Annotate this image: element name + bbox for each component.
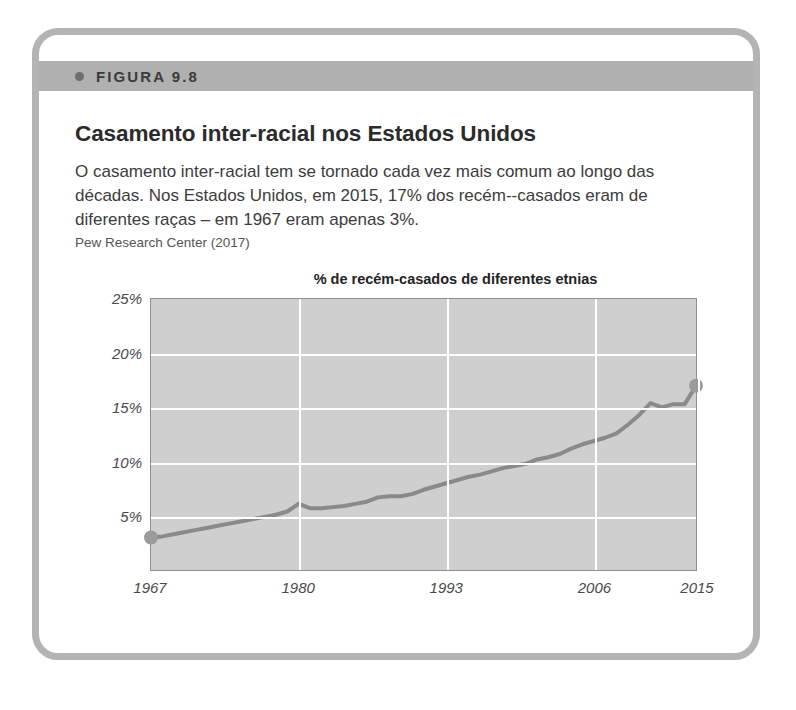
y-axis-tick-label: 10% xyxy=(82,453,142,470)
figure-card: FIGURA 9.8 Casamento inter-racial nos Es… xyxy=(32,28,760,660)
figure-source: Pew Research Center (2017) xyxy=(75,235,717,250)
y-axis-labels: 5%10%15%20%25% xyxy=(72,298,142,571)
x-axis-labels: 19671980199320062015 xyxy=(150,579,697,607)
gridline-horizontal xyxy=(151,463,696,465)
bullet-dot-icon xyxy=(75,72,84,81)
figure-body: Casamento inter-racial nos Estados Unido… xyxy=(39,91,753,250)
x-axis-tick-label: 2015 xyxy=(680,579,713,596)
x-axis-tick-label: 1967 xyxy=(133,579,166,596)
gridline-horizontal xyxy=(151,517,696,519)
gridline-vertical xyxy=(299,299,301,570)
gridline-vertical xyxy=(447,299,449,570)
series-line-chart xyxy=(151,299,696,570)
end-marker xyxy=(689,379,703,393)
y-axis-tick-label: 25% xyxy=(82,290,142,307)
x-axis-tick-label: 1980 xyxy=(281,579,314,596)
gridline-horizontal xyxy=(151,354,696,356)
chart-title: % de recém-casados de diferentes etnias xyxy=(182,271,729,287)
y-axis-tick-label: 5% xyxy=(82,508,142,525)
figure-number-label: FIGURA 9.8 xyxy=(96,68,199,85)
plot-area xyxy=(150,298,697,571)
chart-container: % de recém-casados de diferentes etnias … xyxy=(39,271,753,631)
figure-header-band: FIGURA 9.8 xyxy=(39,61,753,91)
figure-title: Casamento inter-racial nos Estados Unido… xyxy=(75,121,717,147)
start-marker xyxy=(144,531,158,545)
gridline-vertical xyxy=(595,299,597,570)
figure-description: O casamento inter-racial tem se tornado … xyxy=(75,160,675,232)
x-axis-tick-label: 2006 xyxy=(578,579,611,596)
y-axis-tick-label: 20% xyxy=(82,344,142,361)
y-axis-tick-label: 15% xyxy=(82,399,142,416)
gridline-vertical xyxy=(698,299,700,570)
x-axis-tick-label: 1993 xyxy=(430,579,463,596)
gridline-horizontal xyxy=(151,408,696,410)
